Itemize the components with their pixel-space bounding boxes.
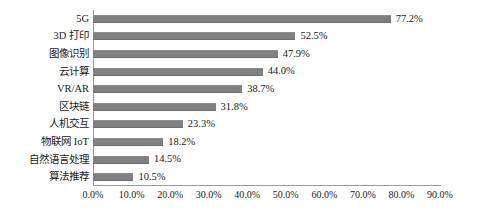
- bar-with-value: 31.8%: [93, 103, 248, 111]
- bar-row: 5G77.2%: [0, 10, 485, 28]
- category-label: 区块链: [59, 102, 89, 113]
- bar[interactable]: [93, 50, 278, 58]
- bar-value-label: 14.5%: [154, 154, 181, 165]
- bar-row: 3D 打印52.5%: [0, 28, 485, 46]
- x-tick-label: 60.0%: [311, 190, 337, 200]
- category-label: 云计算: [59, 66, 89, 77]
- category-label: 自然语言处理: [29, 154, 89, 165]
- category-label: 物联网 IoT: [41, 137, 89, 148]
- bar-value-label: 47.9%: [283, 49, 310, 60]
- bar-with-value: 38.7%: [93, 85, 274, 93]
- bar[interactable]: [93, 173, 133, 181]
- bar-with-value: 14.5%: [93, 156, 181, 164]
- x-tick-label: 70.0%: [350, 190, 376, 200]
- x-tick-label: 50.0%: [273, 190, 299, 200]
- bar-value-label: 10.5%: [138, 172, 165, 183]
- category-label: 图像识别: [49, 49, 89, 60]
- x-tick-label: 80.0%: [389, 190, 415, 200]
- bar-row: 自然语言处理14.5%: [0, 151, 485, 169]
- x-tick-label: 0.0%: [83, 190, 104, 200]
- bar-row: 算法推荐10.5%: [0, 168, 485, 186]
- bar-with-value: 77.2%: [93, 15, 423, 23]
- bar-value-label: 38.7%: [247, 84, 274, 95]
- bar-row: VR/AR38.7%: [0, 80, 485, 98]
- bar-row: 图像识别47.9%: [0, 45, 485, 63]
- category-label: VR/AR: [57, 84, 89, 95]
- x-tick-label: 30.0%: [196, 190, 222, 200]
- x-tick-label: 90.0%: [427, 190, 453, 200]
- bar[interactable]: [93, 68, 263, 76]
- bar-row: 云计算44.0%: [0, 63, 485, 81]
- bar-rows-container: 5G77.2%3D 打印52.5%图像识别47.9%云计算44.0%VR/AR3…: [0, 10, 485, 186]
- bar-with-value: 52.5%: [93, 32, 328, 40]
- category-label: 3D 打印: [54, 31, 89, 42]
- bar[interactable]: [93, 85, 242, 93]
- category-label: 算法推荐: [49, 172, 89, 183]
- bar-value-label: 77.2%: [396, 14, 423, 25]
- bar-value-label: 44.0%: [268, 66, 295, 77]
- bar[interactable]: [93, 156, 149, 164]
- bar[interactable]: [93, 138, 163, 146]
- bar[interactable]: [93, 15, 391, 23]
- x-tick-label: 20.0%: [157, 190, 183, 200]
- bar[interactable]: [93, 120, 183, 128]
- bar[interactable]: [93, 32, 295, 40]
- bar-value-label: 31.8%: [221, 102, 248, 113]
- bar-row: 物联网 IoT18.2%: [0, 133, 485, 151]
- bar-with-value: 47.9%: [93, 50, 310, 58]
- x-tick-label: 10.0%: [119, 190, 145, 200]
- bar-value-label: 52.5%: [300, 31, 327, 42]
- category-label: 5G: [76, 14, 89, 25]
- bar-row: 区块链31.8%: [0, 98, 485, 116]
- x-tick-label: 40.0%: [234, 190, 260, 200]
- bar-value-label: 18.2%: [168, 137, 195, 148]
- x-axis-tick-labels: 0.0%10.0%20.0%30.0%40.0%50.0%60.0%70.0%8…: [0, 190, 485, 208]
- category-label: 人机交互: [49, 119, 89, 130]
- bar-with-value: 18.2%: [93, 138, 195, 146]
- bar-with-value: 44.0%: [93, 68, 295, 76]
- bar-value-label: 23.3%: [188, 119, 215, 130]
- bar-with-value: 10.5%: [93, 173, 166, 181]
- bar-row: 人机交互23.3%: [0, 116, 485, 134]
- bar-chart-figure: 5G77.2%3D 打印52.5%图像识别47.9%云计算44.0%VR/AR3…: [0, 0, 485, 213]
- bar[interactable]: [93, 103, 216, 111]
- bar-with-value: 23.3%: [93, 120, 215, 128]
